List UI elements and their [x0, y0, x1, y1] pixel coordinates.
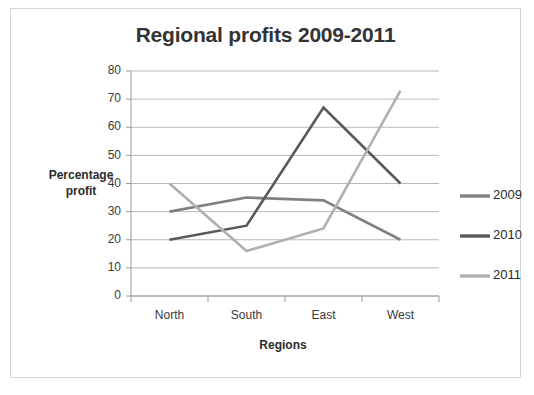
legend-label-2011: 2011	[493, 267, 521, 282]
y-axis-ticks-group: 01020304050607080	[108, 63, 131, 302]
chart-legend: 200920102011	[460, 187, 522, 282]
x-tick-label: East	[311, 308, 336, 322]
x-axis-ticks-group	[131, 296, 439, 302]
y-axis-title-line1: Percentage	[49, 168, 114, 182]
y-tick-label: 50	[108, 148, 122, 162]
y-tick-label: 80	[108, 63, 122, 77]
y-tick-label: 60	[108, 119, 122, 133]
y-tick-label: 0	[114, 288, 121, 302]
x-axis-title: Regions	[259, 338, 307, 352]
chart-frame: Regional profits 2009-2011 0102030405060…	[10, 8, 521, 378]
legend-label-2010: 2010	[493, 227, 522, 242]
x-tick-label: West	[387, 308, 415, 322]
line-chart: 01020304050607080 NorthSouthEastWest 200…	[11, 9, 522, 379]
y-tick-label: 10	[108, 260, 122, 274]
x-tick-labels-group: NorthSouthEastWest	[155, 308, 415, 322]
y-tick-label: 20	[108, 232, 122, 246]
series-line-2011	[170, 91, 401, 251]
series-group	[170, 91, 401, 251]
y-axis-title-line2: profit	[66, 184, 97, 198]
y-tick-label: 30	[108, 204, 122, 218]
x-tick-label: North	[155, 308, 184, 322]
y-tick-label: 70	[108, 91, 122, 105]
x-tick-label: South	[231, 308, 262, 322]
legend-label-2009: 2009	[493, 187, 522, 202]
